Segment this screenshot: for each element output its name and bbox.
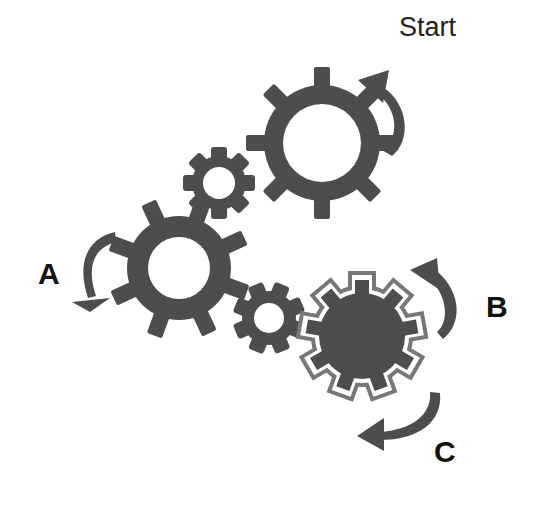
a-rotation-arrow-icon — [72, 232, 116, 312]
c-rotation-arrow-icon — [357, 392, 440, 451]
label-c: C — [434, 435, 456, 469]
label-a: A — [38, 257, 60, 291]
start-label: Start — [399, 12, 456, 43]
gear-solid-outlined-icon — [299, 274, 425, 398]
gear-left-large-icon — [109, 198, 250, 339]
gear-diagram — [0, 0, 544, 506]
label-b: B — [486, 290, 508, 324]
